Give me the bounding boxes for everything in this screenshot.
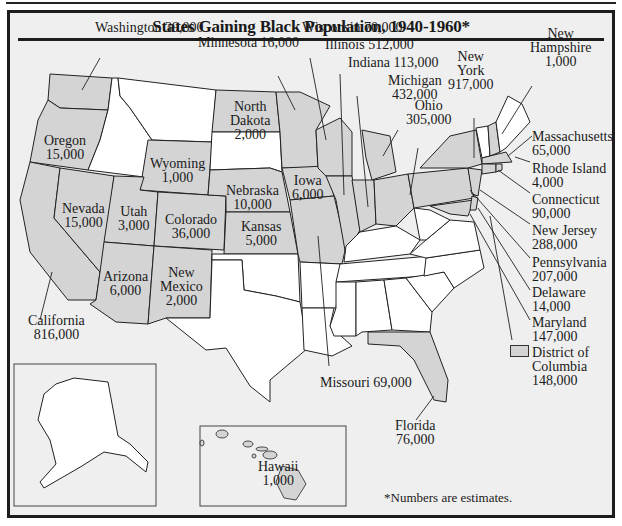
- state-wisconsin: [316, 118, 352, 176]
- footnote: *Numbers are estimates.: [384, 490, 512, 506]
- label-north-dakota: NorthDakota2,000: [230, 100, 270, 142]
- label-new-hampshire: NewHampshire1,000: [530, 27, 591, 69]
- label-minnesota: Minnesota 16,000: [198, 36, 299, 50]
- label-washington: Washington 39,000: [95, 21, 204, 35]
- state-ohio: [374, 174, 414, 226]
- label-wisconsin: Wisconsin 70,000: [302, 21, 403, 35]
- label-colorado: Colorado36,000: [165, 213, 217, 241]
- label-illinois: Illinois 512,000: [325, 38, 414, 52]
- state-connecticut: [482, 164, 496, 174]
- label-nevada: Nevada15,000: [62, 202, 105, 230]
- label-massachusetts: Massachusetts65,000: [532, 130, 613, 158]
- state-new-york: [420, 130, 482, 168]
- label-florida: Florida76,000: [395, 419, 435, 447]
- legend-swatch-dc: [510, 345, 529, 357]
- label-new-jersey: New Jersey288,000: [532, 224, 597, 252]
- label-rhode-island: Rhode Island4,000: [532, 162, 606, 190]
- label-district-of-columbia: District ofColumbia148,000: [532, 346, 589, 388]
- state-washington: [48, 74, 112, 110]
- label-missouri: Missouri 69,000: [320, 376, 412, 390]
- state-maine: [496, 96, 530, 152]
- label-indiana: Indiana 113,000: [348, 56, 438, 70]
- label-hawaii: Hawaii1,000: [258, 460, 298, 488]
- state-michigan: [362, 130, 396, 180]
- label-kansas: Kansas5,000: [241, 220, 281, 248]
- label-oregon: Oregon15,000: [44, 134, 86, 162]
- label-maryland: Maryland147,000: [532, 316, 586, 344]
- label-ohio: Ohio305,000: [406, 99, 452, 127]
- us-map: [0, 0, 622, 526]
- label-utah: Utah3,000: [118, 205, 150, 233]
- label-new-mexico: NewMexico2,000: [160, 266, 203, 308]
- label-wyoming: Wyoming1,000: [150, 157, 205, 185]
- label-connecticut: Connecticut90,000: [532, 193, 600, 221]
- label-new-york: NewYork917,000: [448, 50, 494, 92]
- label-nebraska: Nebraska10,000: [226, 184, 279, 212]
- label-pennsylvania: Pennsylvania207,000: [532, 256, 607, 284]
- state-florida: [368, 332, 448, 402]
- label-california: California816,000: [28, 314, 85, 342]
- label-arizona: Arizona6,000: [103, 270, 148, 298]
- label-delaware: Delaware14,000: [532, 286, 586, 314]
- label-iowa: Iowa6,000: [292, 174, 324, 202]
